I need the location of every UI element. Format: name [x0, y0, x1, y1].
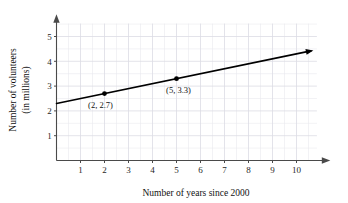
y-tick-label: 5 — [47, 32, 52, 42]
x-tick-label: 6 — [198, 165, 203, 175]
trend-line-arrow-icon — [305, 49, 313, 55]
y-tick-label: 3 — [47, 81, 52, 91]
y-tick-label: 2 — [47, 106, 52, 116]
data-point-marker — [102, 91, 107, 96]
data-point-label: (2, 2.7) — [88, 100, 113, 110]
data-series — [57, 49, 314, 104]
data-point-marker — [174, 76, 179, 81]
y-axis-arrow-icon — [53, 14, 59, 22]
x-tick-label: 10 — [292, 165, 302, 175]
x-tick-label: 2 — [102, 165, 107, 175]
y-tick-label: 1 — [47, 131, 52, 141]
x-tick-label: 1 — [78, 165, 83, 175]
y-axis-title-line1: Number of volunteers — [8, 48, 18, 132]
x-tick-label: 3 — [126, 165, 131, 175]
chart-container: 12345678910 12345 (2, 2.7)(5, 3.3) Numbe… — [0, 0, 348, 203]
x-axis-tick-labels: 12345678910 — [78, 165, 301, 175]
x-tick-label: 5 — [174, 165, 179, 175]
x-tick-label: 7 — [222, 165, 227, 175]
y-axis-tick-labels: 12345 — [47, 32, 52, 141]
x-axis-arrow-icon — [322, 157, 331, 163]
volunteers-line-chart: 12345678910 12345 (2, 2.7)(5, 3.3) Numbe… — [0, 0, 348, 203]
data-point-label: (5, 3.3) — [166, 85, 191, 95]
point-annotations: (2, 2.7)(5, 3.3) — [88, 85, 191, 110]
x-tick-label: 8 — [246, 165, 251, 175]
y-axis-title-line2: (in millions) — [21, 66, 32, 113]
y-tick-label: 4 — [47, 57, 52, 67]
x-tick-label: 4 — [150, 165, 155, 175]
x-tick-label: 9 — [270, 165, 275, 175]
x-axis-title: Number of years since 2000 — [142, 188, 249, 198]
